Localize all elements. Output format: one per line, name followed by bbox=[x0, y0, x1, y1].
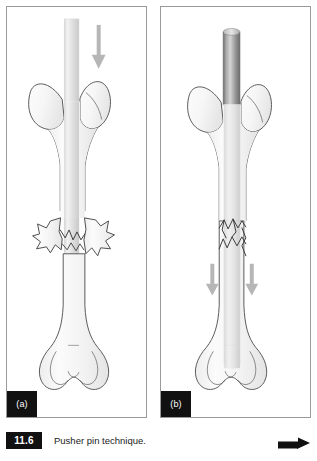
figure-caption: 11.6 Pusher pin technique. bbox=[6, 429, 311, 451]
panel-b-illustration bbox=[161, 7, 310, 417]
downward-force-arrow-b-right bbox=[245, 264, 258, 296]
panel-a-illustration bbox=[7, 7, 146, 417]
right-arrow-icon bbox=[277, 437, 311, 453]
panel-b: (b) bbox=[160, 6, 311, 418]
figure-number-badge: 11.6 bbox=[6, 432, 42, 449]
distal-femur-a bbox=[39, 254, 108, 390]
panel-b-label: (b) bbox=[161, 391, 191, 417]
pusher-pin-b-external bbox=[223, 28, 240, 105]
pusher-pin-a-overlay bbox=[64, 102, 79, 266]
figure-caption-text: Pusher pin technique. bbox=[54, 435, 146, 446]
panel-a-label: (a) bbox=[7, 391, 37, 417]
figure-container: (a) bbox=[0, 0, 317, 461]
panel-a: (a) bbox=[6, 6, 147, 418]
downward-force-arrow-b-left bbox=[206, 264, 219, 296]
downward-force-arrow-a bbox=[92, 25, 106, 69]
